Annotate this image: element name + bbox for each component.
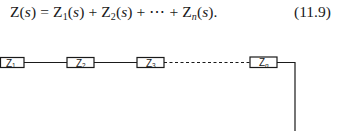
wire-zn-return [277, 63, 295, 132]
series-impedance-diagram: Z1 Z2 Z3 Zn [0, 0, 339, 131]
